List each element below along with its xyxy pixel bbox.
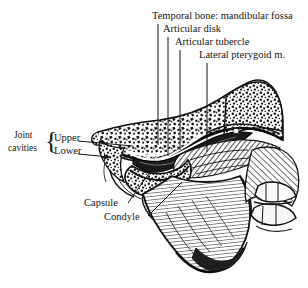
label-upper-cavity: Upper (54, 133, 80, 144)
figure-panel: Temporal bone: mandibular fossa Articula… (0, 0, 308, 288)
maxilla-and-molars (245, 147, 299, 231)
label-capsule: Capsule (84, 198, 118, 209)
label-condyle: Condyle (104, 212, 140, 223)
label-articular-disk: Articular disk (163, 24, 221, 35)
label-lower-cavity: Lower (54, 146, 81, 157)
label-articular-tubercle: Articular tubercle (175, 37, 249, 48)
label-joint: Joint (14, 131, 32, 141)
label-cavities: cavities (8, 144, 37, 154)
label-lateral-pterygoid: Lateral pterygoid m. (199, 50, 285, 61)
label-temporal-bone: Temporal bone: mandibular fossa (152, 11, 293, 22)
mandibular-ramus (143, 176, 251, 272)
